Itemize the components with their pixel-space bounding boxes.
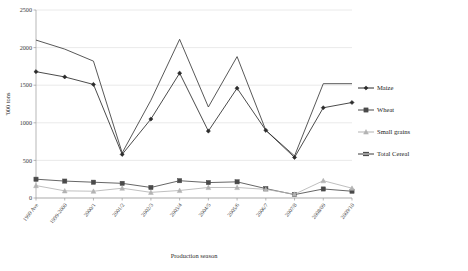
- x-tick-label: 2009/10: [339, 202, 355, 220]
- data-point-square: [178, 179, 182, 183]
- x-tick-label: 2004/5: [197, 202, 211, 218]
- x-tick-label: 2005/6: [226, 202, 240, 218]
- y-tick-label: 2000: [20, 44, 32, 51]
- y-tick-label: 1500: [20, 81, 32, 88]
- x-tick-label: 2000/1: [82, 202, 96, 218]
- x-tick-label: 2007/8: [284, 202, 298, 218]
- y-tick-label: 1000: [20, 119, 32, 126]
- data-point-square: [91, 180, 95, 184]
- data-point-square: [120, 181, 124, 185]
- legend: MaizeWheatSmall grainsTotal Cereal: [358, 84, 411, 157]
- data-point-square: [63, 179, 67, 183]
- x-tick-label: 2006/7: [255, 202, 269, 218]
- x-tick-label: 2008/09: [311, 202, 327, 220]
- legend-label: Total Cereal: [377, 150, 409, 157]
- legend-item[interactable]: Total Cereal: [358, 150, 409, 157]
- legend-label: Small grains: [377, 128, 411, 135]
- legend-item[interactable]: Small grains: [358, 128, 411, 135]
- y-tick-label: 500: [23, 157, 32, 164]
- data-point-diamond: [364, 86, 368, 90]
- y-tick-label: 2500: [20, 6, 32, 13]
- chart-canvas: 05001000150020002500'000 tons1999 Ave199…: [0, 0, 468, 271]
- data-point-square: [364, 108, 368, 112]
- y-axis-title: '000 tons: [4, 92, 11, 116]
- legend-label: Wheat: [377, 106, 394, 113]
- x-tick-label: 1999-2000: [48, 202, 68, 225]
- x-tick-label: 2001/2: [111, 202, 125, 218]
- x-axis-ticks: 1999 Ave1999-20002000/12001/22002/32003/…: [22, 198, 356, 225]
- legend-item[interactable]: Maize: [358, 84, 394, 91]
- x-tick-label: 2002/3: [140, 202, 154, 218]
- x-tick-label: 2003/4: [169, 202, 183, 218]
- plot-background: [36, 10, 352, 198]
- data-point-square: [149, 185, 153, 189]
- data-point-square: [206, 180, 210, 184]
- legend-item[interactable]: Wheat: [358, 106, 394, 113]
- y-axis-ticks: 05001000150020002500: [20, 6, 36, 201]
- data-point-square: [321, 187, 325, 191]
- x-tick-label: 1999 Ave: [22, 202, 40, 223]
- line-chart: 05001000150020002500'000 tons1999 Ave199…: [0, 0, 468, 271]
- legend-label: Maize: [377, 84, 394, 91]
- y-tick-label: 0: [29, 194, 32, 201]
- data-point-square: [34, 177, 38, 181]
- x-axis-title: Production season: [171, 252, 218, 259]
- data-point-square: [235, 180, 239, 184]
